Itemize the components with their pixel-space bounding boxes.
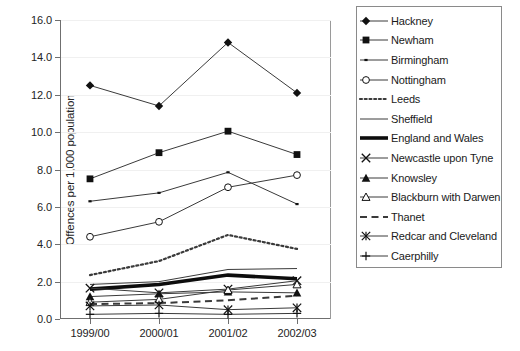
plot-canvas: 0.02.04.06.08.010.012.014.016.0 1999/002… [60, 20, 331, 319]
x-axis-tick-label: 2002/03 [277, 327, 316, 339]
legend-item-caerphilly[interactable]: Caerphilly [357, 246, 501, 266]
y-axis-tick-label: 2.0 [37, 276, 52, 288]
x-axis-tick-label: 2001/02 [208, 327, 247, 339]
legend-marker-none-icon [359, 208, 389, 226]
legend-marker-cross-x-icon [359, 149, 389, 167]
data-point-plus [362, 252, 370, 260]
x-axis-tick [228, 319, 229, 324]
legend-marker-filled-diamond-icon [359, 12, 389, 30]
legend-item-newcastle-upon-tyne[interactable]: Newcastle upon Tyne [357, 148, 501, 168]
legend-item-label: Nottingham [391, 74, 446, 86]
data-point-small-dot [226, 171, 229, 173]
legend-item-label: Thanet [391, 211, 424, 223]
x-axis-tick-label: 2000/01 [139, 327, 178, 339]
legend-marker-plus-icon [359, 247, 389, 265]
series-birmingham [88, 171, 298, 205]
data-point-filled-diamond [86, 81, 94, 89]
legend-item-blackburn-with-darwen[interactable]: Blackburn with Darwen [357, 187, 501, 207]
data-point-filled-square [87, 175, 94, 182]
data-point-plus [224, 310, 232, 318]
x-axis-tick [297, 319, 298, 324]
legend-item-england-and-wales[interactable]: England and Wales [357, 129, 501, 149]
legend-item-label: Newham [391, 34, 434, 46]
legend-item-label: Sheffield [391, 113, 432, 125]
data-point-plus [86, 310, 94, 318]
legend-item-knowsley[interactable]: Knowsley [357, 168, 501, 188]
series-thanet [90, 296, 297, 304]
y-axis-tick-label: 4.0 [37, 238, 52, 250]
legend-marker-none-icon [359, 129, 389, 147]
x-axis-tick-label: 1999/00 [70, 327, 109, 339]
legend-item-birmingham[interactable]: Birmingham [357, 50, 501, 70]
data-point-open-circle [156, 218, 163, 225]
legend-marker-none-icon [359, 90, 389, 108]
legend-item-label: Redcar and Cleveland [391, 230, 497, 242]
data-point-filled-square [294, 151, 301, 158]
chart-legend: HackneyNewhamBirminghamNottinghamLeedsSh… [356, 6, 502, 268]
legend-item-sheffield[interactable]: Sheffield [357, 109, 501, 129]
legend-item-nottingham[interactable]: Nottingham [357, 70, 501, 90]
series-nottingham [87, 172, 301, 240]
legend-marker-filled-triangle-icon [359, 169, 389, 187]
x-axis-tick [159, 319, 160, 324]
legend-marker-filled-square-icon [359, 31, 389, 49]
legend-item-label: Knowsley [391, 172, 437, 184]
y-axis-tick-label: 8.0 [37, 164, 52, 176]
y-axis-tick [55, 319, 60, 320]
data-point-filled-diamond [293, 89, 301, 97]
legend-item-label: Blackburn with Darwen [391, 191, 500, 203]
y-axis-tick-label: 0.0 [37, 313, 52, 325]
data-point-small-dot [157, 192, 160, 194]
y-axis-tick-label: 12.0 [31, 89, 52, 101]
data-point-small-dot [364, 59, 367, 61]
y-axis-tick-label: 10.0 [31, 126, 52, 138]
series-newham [87, 128, 301, 182]
series-caerphilly [86, 309, 301, 318]
series-lines [60, 20, 331, 319]
data-point-small-dot [88, 200, 91, 202]
data-point-open-circle [87, 233, 94, 240]
legend-item-redcar-and-cleveland[interactable]: Redcar and Cleveland [357, 227, 501, 247]
x-axis-tick [90, 319, 91, 324]
legend-item-hackney[interactable]: Hackney [357, 11, 501, 31]
data-point-small-dot [295, 203, 298, 205]
legend-item-label: Newcastle upon Tyne [391, 152, 493, 164]
y-axis-tick-label: 14.0 [31, 51, 52, 63]
legend-item-label: Birmingham [391, 54, 448, 66]
y-axis-tick-label: 16.0 [31, 14, 52, 26]
data-point-plus [155, 309, 163, 317]
legend-item-newham[interactable]: Newham [357, 31, 501, 51]
legend-marker-open-triangle-icon [359, 188, 389, 206]
legend-marker-none-icon [359, 110, 389, 128]
legend-marker-star-x-icon [359, 227, 389, 245]
legend-item-leeds[interactable]: Leeds [357, 89, 501, 109]
chart-plot-area: Offences per 1,000 population 0.02.04.06… [60, 20, 331, 319]
data-point-filled-square [363, 37, 370, 44]
legend-item-thanet[interactable]: Thanet [357, 207, 501, 227]
data-point-filled-square [225, 128, 232, 135]
chart-screenshot: Offences per 1,000 population 0.02.04.06… [0, 0, 520, 351]
data-point-open-circle [363, 76, 370, 83]
data-point-filled-square [156, 149, 163, 156]
y-axis-tick-label: 6.0 [37, 201, 52, 213]
legend-marker-small-dot-icon [359, 51, 389, 69]
data-point-filled-diamond [362, 17, 370, 25]
series-hackney [86, 38, 301, 110]
legend-item-label: Leeds [391, 93, 420, 105]
legend-marker-open-circle-icon [359, 71, 389, 89]
data-point-open-circle [294, 172, 301, 179]
legend-item-label: Hackney [391, 15, 433, 27]
legend-item-label: England and Wales [391, 132, 483, 144]
data-point-open-circle [225, 184, 232, 191]
legend-item-label: Caerphilly [391, 250, 438, 262]
